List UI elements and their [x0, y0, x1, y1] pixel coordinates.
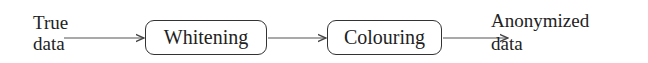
input-label-line1: True	[33, 12, 68, 33]
input-label-line2: data	[33, 33, 65, 54]
step-colouring: Colouring	[327, 20, 442, 55]
output-label-line2: data	[491, 33, 523, 54]
step-whitening: Whitening	[145, 20, 267, 55]
output-label-line1: Anonymized	[491, 10, 589, 31]
